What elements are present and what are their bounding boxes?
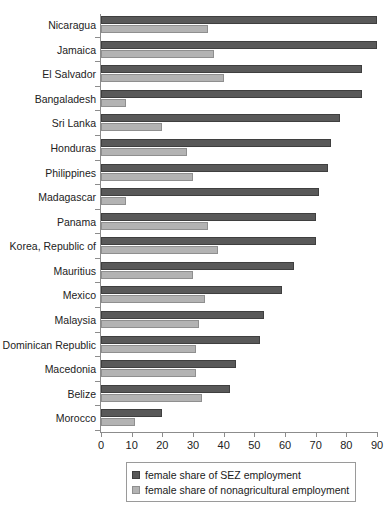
- chart-legend: female share of SEZ employment female sh…: [126, 462, 356, 502]
- bar-sez: [101, 311, 264, 319]
- category-axis-tick: [95, 135, 100, 136]
- value-axis-tick: [224, 432, 225, 437]
- bar-group: [0, 137, 390, 162]
- bar-nonagricultural: [101, 197, 126, 205]
- value-axis-tick: [162, 432, 163, 437]
- legend-swatch-sez-icon: [132, 471, 140, 479]
- category-axis-tick: [95, 307, 100, 308]
- value-axis-tick-label: 10: [117, 439, 147, 451]
- value-axis-tick-label: 90: [362, 439, 390, 451]
- bar-sez: [101, 16, 377, 24]
- bar-sez: [101, 41, 377, 49]
- value-axis-tick: [316, 432, 317, 437]
- value-axis-tick: [377, 432, 378, 437]
- bar-nonagricultural: [101, 99, 126, 107]
- category-axis-tick: [95, 381, 100, 382]
- bar-sez: [101, 385, 230, 393]
- bar-group: [0, 235, 390, 260]
- value-axis-tick-label: 60: [270, 439, 300, 451]
- category-axis-tick: [95, 233, 100, 234]
- category-axis-tick: [95, 258, 100, 259]
- category-axis-tick: [95, 405, 100, 406]
- bar-group: [0, 358, 390, 383]
- category-axis-tick: [95, 184, 100, 185]
- bar-group: [0, 383, 390, 408]
- category-axis-tick: [95, 282, 100, 283]
- bar-nonagricultural: [101, 320, 199, 328]
- legend-label-sez: female share of SEZ employment: [145, 469, 301, 481]
- bar-group: [0, 186, 390, 211]
- legend-item-sez: female share of SEZ employment: [132, 467, 350, 482]
- bar-nonagricultural: [101, 369, 196, 377]
- bar-group: [0, 211, 390, 236]
- category-axis-tick: [95, 209, 100, 210]
- bar-sez: [101, 336, 260, 344]
- legend-item-nonagricultural: female share of nonagricultural employme…: [132, 482, 350, 497]
- legend-label-nonagricultural: female share of nonagricultural employme…: [145, 484, 349, 496]
- category-axis-tick: [95, 37, 100, 38]
- bar-group: [0, 284, 390, 309]
- value-axis-tick-label: 20: [147, 439, 177, 451]
- bar-sez: [101, 90, 362, 98]
- category-axis-tick: [95, 86, 100, 87]
- bar-nonagricultural: [101, 271, 193, 279]
- bar-sez: [101, 164, 328, 172]
- bar-sez: [101, 360, 236, 368]
- bar-nonagricultural: [101, 148, 187, 156]
- value-axis-tick: [193, 432, 194, 437]
- category-axis-line: [100, 432, 378, 433]
- bar-sez: [101, 114, 340, 122]
- bar-nonagricultural: [101, 50, 214, 58]
- value-axis-tick-label: 0: [86, 439, 116, 451]
- value-axis-tick: [254, 432, 255, 437]
- value-axis-tick: [346, 432, 347, 437]
- bar-sez: [101, 139, 331, 147]
- bar-group: [0, 309, 390, 334]
- bar-group: [0, 334, 390, 359]
- bar-sez: [101, 188, 319, 196]
- bar-group: [0, 260, 390, 285]
- bar-nonagricultural: [101, 123, 162, 131]
- bar-group: [0, 407, 390, 432]
- category-axis-tick: [95, 110, 100, 111]
- category-axis-tick: [95, 332, 100, 333]
- value-axis-tick: [101, 432, 102, 437]
- bar-sez: [101, 262, 294, 270]
- value-axis-tick-label: 30: [178, 439, 208, 451]
- bar-nonagricultural: [101, 418, 135, 426]
- value-axis-tick-label: 70: [301, 439, 331, 451]
- bar-sez: [101, 286, 282, 294]
- value-axis-line: [100, 14, 101, 432]
- bar-group: [0, 162, 390, 187]
- bar-nonagricultural: [101, 173, 193, 181]
- bar-group: [0, 14, 390, 39]
- category-axis-tick: [95, 61, 100, 62]
- category-axis-tick: [95, 356, 100, 357]
- bar-group: [0, 112, 390, 137]
- bar-group: [0, 63, 390, 88]
- bar-sez: [101, 237, 316, 245]
- value-axis-tick: [132, 432, 133, 437]
- bar-nonagricultural: [101, 74, 224, 82]
- value-axis-tick: [285, 432, 286, 437]
- bar-nonagricultural: [101, 345, 196, 353]
- bar-nonagricultural: [101, 394, 202, 402]
- bar-nonagricultural: [101, 222, 208, 230]
- value-axis-tick-label: 50: [239, 439, 269, 451]
- category-axis-tick: [95, 430, 100, 431]
- bar-sez: [101, 213, 316, 221]
- bar-sez: [101, 409, 162, 417]
- bar-chart: NicaraguaJamaicaEl SalvadorBangaladeshSr…: [0, 0, 390, 508]
- bar-group: [0, 39, 390, 64]
- legend-swatch-nonagricultural-icon: [132, 486, 140, 494]
- bar-group: [0, 88, 390, 113]
- value-axis-tick-label: 40: [209, 439, 239, 451]
- bar-nonagricultural: [101, 295, 205, 303]
- value-axis-tick-label: 80: [331, 439, 361, 451]
- bar-nonagricultural: [101, 246, 218, 254]
- bar-nonagricultural: [101, 25, 208, 33]
- bar-sez: [101, 65, 362, 73]
- category-axis-tick: [95, 160, 100, 161]
